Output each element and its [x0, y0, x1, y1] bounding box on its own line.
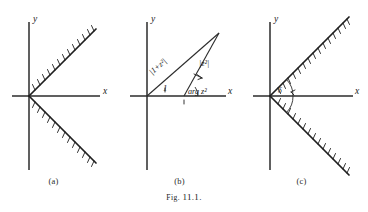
panel-b-x-axis-label: x — [227, 86, 233, 96]
panel-a-lower-ray — [29, 96, 96, 163]
panel-a-upper-hatching — [33, 26, 95, 91]
panel-a-x-axis-label: x — [102, 86, 108, 96]
figure-caption: Fig. 11.1. — [0, 192, 368, 202]
panel-b-hypotenuse-label: |1+z²| — [147, 57, 168, 77]
panel-c: δ y x — [241, 0, 364, 186]
panel-a-upper-ray — [29, 29, 96, 96]
panel-b-caption: (b) — [118, 176, 241, 186]
figure-container: y x — [0, 0, 368, 212]
panel-b: |1+z²| |z²| 1 arg z² y x — [118, 0, 241, 186]
panel-c-angle-label: δ — [278, 86, 282, 95]
panel-a-lower-hatching — [33, 102, 95, 167]
panel-c-y-axis-label: y — [273, 14, 279, 24]
panel-b-base-label: 1 — [163, 83, 167, 93]
panel-a: y x — [0, 0, 123, 186]
panel-b-y-axis-label: y — [150, 14, 156, 24]
panel-b-side-label: |z²| — [199, 59, 209, 68]
panel-c-caption: (c) — [240, 176, 363, 186]
panel-c-x-axis-label: x — [354, 86, 360, 96]
figure-caption-prefix: Fig. — [166, 193, 180, 202]
panel-a-y-axis-label: y — [32, 14, 38, 24]
panel-c-upper-ray — [270, 17, 349, 96]
figure-caption-number: 11.1. — [183, 192, 202, 202]
panel-c-lower-ray — [270, 96, 349, 175]
panel-a-caption: (a) — [0, 176, 115, 186]
panel-b-angle-label: arg z² — [188, 87, 207, 96]
